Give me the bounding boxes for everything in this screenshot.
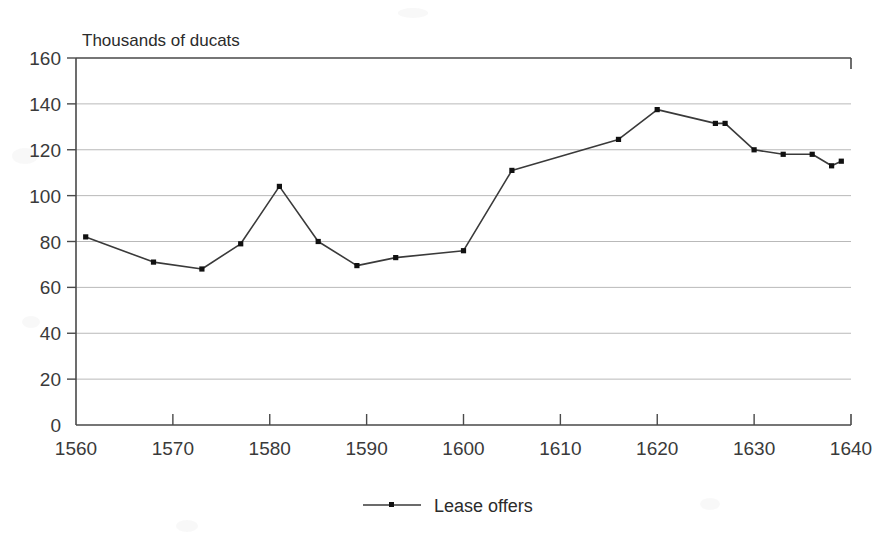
- gridlines-group: [76, 104, 851, 379]
- x-tick-label: 1570: [152, 438, 194, 459]
- chart-legend: Lease offers: [363, 496, 533, 516]
- data-point-marker: [839, 159, 844, 164]
- x-tick-label: 1560: [55, 438, 97, 459]
- y-axis-tick-labels: 020406080100120140160: [29, 48, 61, 436]
- x-tick-label: 1590: [345, 438, 387, 459]
- x-tick-label: 1610: [539, 438, 581, 459]
- legend-marker-symbol: [389, 502, 394, 507]
- data-point-marker: [810, 152, 815, 157]
- series-markers-lease-offers: [83, 107, 844, 272]
- data-point-marker: [354, 263, 359, 268]
- y-tick-label: 120: [29, 140, 61, 161]
- legend-label-lease-offers: Lease offers: [434, 496, 533, 516]
- data-point-marker: [83, 234, 88, 239]
- data-point-marker: [393, 255, 398, 260]
- data-point-marker: [199, 266, 204, 271]
- data-point-marker: [781, 152, 786, 157]
- x-tick-label: 1580: [249, 438, 291, 459]
- y-axis-caption: Thousands of ducats: [82, 31, 240, 50]
- data-point-marker: [713, 121, 718, 126]
- data-point-marker: [616, 137, 621, 142]
- data-point-marker: [151, 260, 156, 265]
- data-point-marker: [752, 147, 757, 152]
- data-point-marker: [829, 163, 834, 168]
- data-point-marker: [461, 248, 466, 253]
- x-axis-tick-labels: 156015701580159016001610162016301640: [55, 438, 872, 459]
- y-tick-label: 160: [29, 48, 61, 69]
- y-tick-label: 0: [50, 415, 61, 436]
- y-tick-label: 100: [29, 186, 61, 207]
- data-point-marker: [655, 107, 660, 112]
- y-tick-label: 60: [40, 277, 61, 298]
- x-tick-label: 1600: [442, 438, 484, 459]
- series-line-lease-offers: [86, 110, 842, 269]
- y-tick-label: 80: [40, 232, 61, 253]
- data-point-marker: [277, 184, 282, 189]
- chart-canvas: 020406080100120140160 156015701580159016…: [0, 0, 895, 557]
- data-point-marker: [316, 239, 321, 244]
- x-tick-label: 1620: [636, 438, 678, 459]
- data-point-marker: [509, 168, 514, 173]
- chart-figure: 020406080100120140160 156015701580159016…: [0, 0, 895, 557]
- data-point-marker: [723, 121, 728, 126]
- x-tick-label: 1630: [733, 438, 775, 459]
- series-group: [83, 107, 844, 272]
- x-tick-label: 1640: [830, 438, 872, 459]
- data-point-marker: [238, 241, 243, 246]
- y-tick-label: 20: [40, 369, 61, 390]
- y-tick-label: 40: [40, 323, 61, 344]
- y-tick-label: 140: [29, 94, 61, 115]
